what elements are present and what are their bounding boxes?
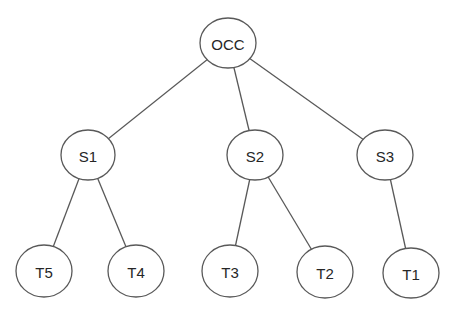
node-occ: OCC: [200, 18, 256, 68]
node-label: T1: [402, 266, 420, 283]
node-s2: S2: [227, 130, 283, 180]
node-label: T4: [127, 264, 145, 281]
tree-diagram: OCCS1S2S3T5T4T3T2T1: [0, 0, 459, 314]
node-label: OCC: [211, 36, 245, 53]
node-t5: T5: [16, 245, 72, 297]
node-t1: T1: [383, 248, 439, 298]
node-s3: S3: [357, 130, 413, 180]
node-t4: T4: [108, 245, 164, 297]
node-label: T3: [221, 264, 239, 281]
nodes-layer: OCCS1S2S3T5T4T3T2T1: [16, 18, 439, 298]
node-t2: T2: [297, 246, 353, 298]
node-label: S1: [79, 148, 97, 165]
node-label: T2: [316, 265, 334, 282]
node-label: S3: [376, 148, 394, 165]
node-t3: T3: [202, 245, 258, 297]
node-label: S2: [246, 148, 264, 165]
node-s1: S1: [61, 130, 115, 180]
node-label: T5: [35, 264, 53, 281]
